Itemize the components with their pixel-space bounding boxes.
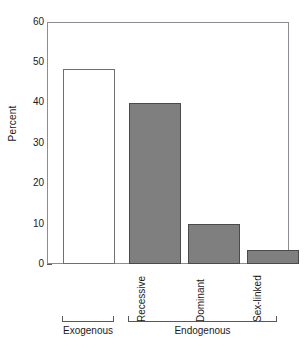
group-label-exogenous: Exogenous — [42, 325, 134, 336]
x-axis-category-labels: Recessive Dominant Sex-linked — [0, 0, 308, 349]
bracket-exogenous — [62, 316, 114, 322]
bar-chart-figure: Percent 60 50 40 30 20 10 0 Recessive Do… — [0, 0, 308, 349]
bracket-endogenous — [128, 316, 277, 322]
group-label-endogenous: Endogenous — [128, 325, 277, 336]
x-tick-label-sex-linked: Sex-linked — [253, 275, 263, 322]
